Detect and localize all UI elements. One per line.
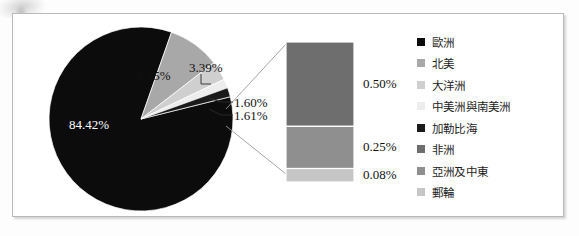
legend-swatch-icon — [417, 188, 425, 196]
bar-segment-africa — [286, 42, 354, 126]
legend-swatch-icon — [417, 102, 425, 110]
detail-bar-group — [286, 42, 354, 182]
legend-swatch-icon — [417, 124, 425, 132]
page-root: 84.42% 9.15% 3.39% 1.60% 1.61% 0.50% 0.2… — [0, 0, 579, 236]
bar-segment-asia-middle-east — [286, 126, 354, 168]
leader-line-bottom — [226, 126, 286, 174]
legend-label: 中美洲與南美洲 — [432, 98, 510, 114]
legend-swatch-icon — [417, 81, 425, 89]
legend-label: 郵輪 — [432, 184, 454, 200]
pie-label-oceania: 3.39% — [189, 60, 223, 76]
pie-label-europe: 84.42% — [69, 117, 109, 133]
pie-label-caribbean: 1.61% — [234, 108, 268, 124]
bar-segment-cruise — [286, 169, 354, 182]
legend-swatch-icon — [417, 38, 425, 46]
legend-item-asia-middle-east[interactable]: 亞洲及中東 — [417, 160, 557, 182]
legend-swatch-icon — [417, 59, 425, 67]
legend-label: 亞洲及中東 — [432, 163, 488, 179]
legend-item-north-america[interactable]: 北美 — [417, 53, 557, 75]
legend-item-central-south-america[interactable]: 中美洲與南美洲 — [417, 96, 557, 118]
chart-frame: 84.42% 9.15% 3.39% 1.60% 1.61% 0.50% 0.2… — [12, 13, 564, 217]
pie-label-north-america: 9.15% — [137, 68, 171, 84]
legend-label: 加勒比海 — [432, 120, 477, 136]
legend-label: 歐洲 — [432, 34, 454, 50]
legend-item-oceania[interactable]: 大洋洲 — [417, 74, 557, 96]
legend-item-caribbean[interactable]: 加勒比海 — [417, 117, 557, 139]
legend-swatch-icon — [417, 167, 425, 175]
legend-item-europe[interactable]: 歐洲 — [417, 31, 557, 53]
legend-label: 大洋洲 — [432, 77, 466, 93]
bar-label-africa: 0.50% — [363, 76, 397, 92]
legend-swatch-icon — [417, 145, 425, 153]
legend-item-cruise[interactable]: 郵輪 — [417, 182, 557, 204]
chart-plot-area: 84.42% 9.15% 3.39% 1.60% 1.61% 0.50% 0.2… — [13, 14, 563, 216]
bar-label-cruise: 0.08% — [363, 167, 397, 183]
legend-label: 非洲 — [432, 141, 454, 157]
bar-label-asia-middle-east: 0.25% — [363, 139, 397, 155]
legend-item-africa[interactable]: 非洲 — [417, 139, 557, 161]
chart-legend: 歐洲 北美 大洋洲 中美洲與南美洲 加勒比海 — [417, 31, 557, 203]
legend-label: 北美 — [432, 55, 454, 71]
